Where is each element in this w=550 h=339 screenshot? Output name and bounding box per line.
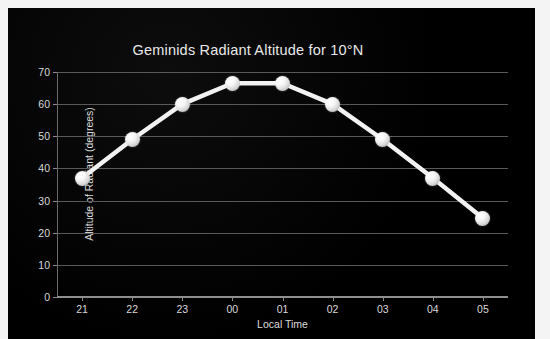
y-tick-label: 40 [38,162,50,174]
y-tick-label: 0 [44,291,50,303]
x-tick-mark [132,297,133,301]
series-line [57,72,508,297]
x-tick-mark [182,297,183,301]
y-tick-mark [53,297,57,298]
data-point-marker [125,132,140,147]
y-tick-label: 70 [38,66,50,78]
chart-title: Geminids Radiant Altitude for 10°N [8,42,488,58]
x-tick-label: 21 [76,303,88,315]
chart-surface: Geminids Radiant Altitude for 10°N Altit… [8,8,535,339]
x-tick-mark [333,297,334,301]
y-tick-label: 60 [38,98,50,110]
data-point-marker [225,76,240,91]
x-tick-mark [82,297,83,301]
data-point-marker [175,97,190,112]
x-tick-label: 23 [176,303,188,315]
x-tick-label: 02 [327,303,339,315]
y-tick-label: 20 [38,227,50,239]
chart-frame: Geminids Radiant Altitude for 10°N Altit… [0,0,550,339]
x-tick-label: 05 [477,303,489,315]
data-point-marker [275,76,290,91]
x-tick-mark [433,297,434,301]
data-point-marker [425,171,440,186]
x-tick-label: 22 [126,303,138,315]
y-tick-label: 10 [38,259,50,271]
y-tick-label: 30 [38,195,50,207]
x-tick-label: 03 [377,303,389,315]
x-tick-mark [483,297,484,301]
x-tick-label: 01 [277,303,289,315]
plot-area: 010203040506070 212223000102030405 [57,72,508,297]
x-tick-label: 00 [227,303,239,315]
x-tick-mark [383,297,384,301]
y-tick-label: 50 [38,130,50,142]
x-tick-mark [283,297,284,301]
x-axis-label: Local Time [57,318,508,330]
data-point-marker [75,171,90,186]
x-tick-label: 04 [427,303,439,315]
data-point-marker [325,97,340,112]
x-tick-mark [232,297,233,301]
